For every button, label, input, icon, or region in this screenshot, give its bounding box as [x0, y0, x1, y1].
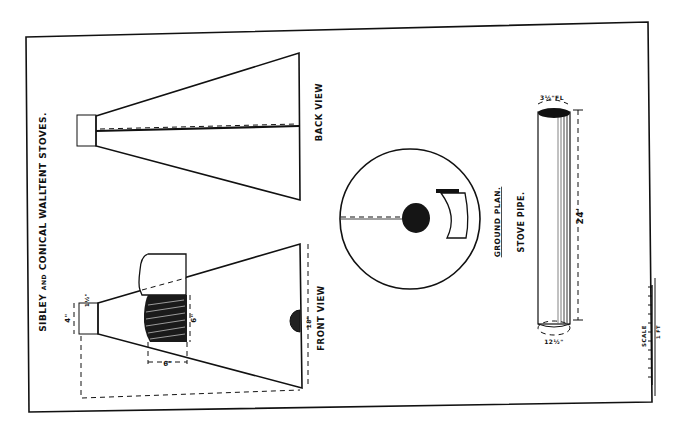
stove-pipe-top-dim: 3½"FL	[540, 94, 564, 101]
plate-title: SIBLEY AND CONICAL WALLTENT STOVES.	[38, 112, 48, 332]
front-view-cone	[98, 244, 302, 388]
scale-bar	[648, 278, 655, 396]
back-view-label: BACK VIEW	[314, 83, 324, 141]
stove-pipe-top	[538, 108, 570, 118]
ground-plan-stove	[402, 203, 430, 233]
ground-plan-label: GROUND PLAN.	[493, 187, 502, 258]
stove-pipe-length-dim: 24'	[575, 208, 585, 225]
scale-unit: 1 FT	[655, 325, 661, 339]
front-collar-depth-dim: 1½"	[84, 293, 90, 307]
back-view-seam	[96, 126, 299, 131]
ground-plan-drawing	[340, 149, 480, 289]
drawing-plate: SIBLEY AND CONICAL WALLTENT STOVES. BACK…	[0, 0, 698, 438]
stove-pipe-bottom-dim: 12½"	[544, 338, 564, 345]
svg-text:SCALE: SCALE	[641, 325, 647, 347]
front-damper-dim: 18"	[305, 316, 312, 329]
stove-pipe-body	[538, 112, 570, 324]
svg-text:SIBLEY AND CONICAL: SIBLEY AND CONICAL WALLTENT STOVES.	[38, 112, 48, 332]
ground-plan-door	[441, 193, 468, 238]
front-door-width-dim: 6"	[163, 360, 173, 368]
front-collar-dim: 4"	[64, 313, 72, 323]
front-door-height-dim: 6"	[190, 313, 198, 323]
scale-label: SCALE	[641, 325, 647, 347]
front-view-damper	[290, 310, 300, 332]
back-view-collar	[77, 115, 96, 146]
back-view-drawing	[77, 53, 300, 200]
stove-pipe-label: STOVE PIPE.	[517, 192, 526, 253]
front-view-label: FRONT VIEW	[316, 285, 326, 350]
